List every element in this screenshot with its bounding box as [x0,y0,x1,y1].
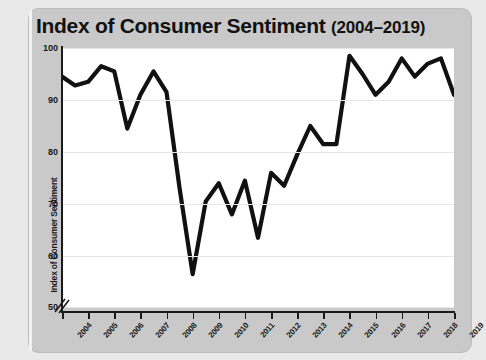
x-tick-mark [297,313,299,319]
x-tick-mark [193,313,195,319]
x-tick-mark [219,313,221,319]
title-year-range: (2004–2019) [331,18,425,37]
x-tick-mark [62,313,64,319]
data-line-series [62,48,454,308]
y-axis-line [61,46,63,312]
gridline [62,256,454,257]
x-tick-label: 2011 [258,321,276,339]
gridline [62,100,454,101]
x-tick-mark [114,313,116,319]
x-tick-label: 2015 [363,321,381,340]
x-tick-mark [349,313,351,319]
x-tick-mark [376,313,378,319]
x-tick-mark [402,313,404,319]
x-tick-mark [88,313,90,319]
plot-area [62,48,454,308]
gridline [62,48,454,49]
x-tick-label: 2014 [337,321,355,340]
x-tick-label: 2018 [441,321,459,340]
x-tick-label: 2004 [76,321,94,340]
x-tick-label: 2008 [180,321,198,340]
gridline [62,152,454,153]
x-tick-mark [454,313,456,319]
x-tick-label: 2016 [389,321,407,340]
y-axis-title-wrap: Index of Consumer Sentiment [34,80,48,240]
gridline [62,307,454,308]
y-tick-label: 100 [32,44,58,53]
page-title: Index of Consumer Sentiment (2004–2019) [36,14,466,42]
y-axis-title: Index of Consumer Sentiment [49,155,59,315]
title-main: Index of Consumer Sentiment [36,14,325,37]
x-tick-label: 2017 [415,321,433,340]
x-tick-label: 2010 [232,321,250,340]
x-tick-label: 2013 [311,321,329,340]
x-tick-mark [323,313,325,319]
x-tick-label: 2006 [128,321,146,340]
x-tick-label: 2019 [468,321,486,340]
x-tick-mark [428,313,430,319]
x-tick-mark [245,313,247,319]
gridline [62,204,454,205]
x-tick-labels: 2004200520062007200820092010201120122013… [0,313,480,357]
x-tick-label: 2012 [285,321,303,340]
x-tick-label: 2007 [154,321,172,340]
x-tick-mark [271,313,273,319]
x-tick-mark [167,313,169,319]
x-tick-label: 2005 [102,321,120,340]
x-tick-label: 2009 [206,321,224,340]
x-tick-mark [140,313,142,319]
